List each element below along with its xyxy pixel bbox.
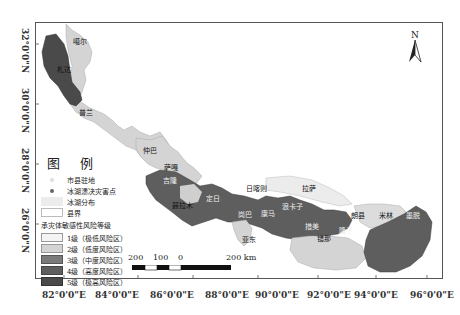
lon-label-92: 92°0'0"E	[307, 290, 351, 300]
risk-level-2-swatch	[41, 244, 63, 253]
place-lhasa: 拉萨	[302, 183, 316, 193]
county-boundary-icon	[41, 208, 63, 217]
place-medog: 墨脱	[406, 210, 420, 220]
place-gamba: 岗巴	[238, 209, 252, 219]
north-arrow: N	[405, 30, 425, 66]
lat-label-30: 30°0'0"N	[20, 88, 30, 133]
scale-label-0: 0	[178, 253, 183, 262]
place-gyirong: 吉隆	[163, 175, 177, 185]
glacial-lake-icon	[41, 197, 63, 206]
north-arrow-icon	[408, 40, 422, 64]
place-yadong: 亚东	[242, 234, 256, 244]
legend-risk-5: 5级（极高风险区）	[41, 276, 151, 287]
place-nyalam: 聂拉木	[172, 200, 193, 210]
legend-item-disaster: 冰湖溃决灾害点	[41, 185, 151, 196]
place-burang: 普兰	[79, 107, 93, 117]
place-comai: 措美	[305, 221, 319, 231]
place-tingri: 定日	[206, 193, 220, 203]
legend-risk-1: 1级（极低风险区）	[41, 232, 151, 243]
place-zanda: 札达	[57, 64, 71, 74]
place-nagarze: 浪卡子	[282, 201, 303, 211]
risk-level-3-swatch	[41, 255, 63, 264]
place-lhunze: 隆子	[339, 225, 353, 235]
risk-level-title: 承灾体敏感性风险等级	[41, 220, 151, 230]
scale-label-100: 100	[153, 253, 168, 262]
place-kangmar: 康马	[261, 208, 275, 218]
lon-label-84: 84°0'0"E	[95, 290, 139, 300]
lon-label-88: 88°0'0"E	[205, 290, 249, 300]
city-dot-icon	[41, 175, 63, 184]
scale-bar-graphic	[132, 265, 237, 271]
risk-level-1-swatch	[41, 233, 63, 242]
legend-item-boundary: 县界	[41, 207, 151, 218]
lon-label-94: 94°0'0"E	[354, 290, 398, 300]
lon-label-96: 96°0'0"E	[410, 290, 454, 300]
lon-label-90: 90°0'0"E	[255, 290, 299, 300]
legend-title: 图 例	[47, 153, 151, 172]
place-gar: 噶尔	[73, 36, 87, 46]
place-mainling: 米林	[379, 210, 393, 220]
scale-label-200km: 200 km	[226, 253, 256, 262]
lon-label-86: 86°0'0"E	[150, 290, 194, 300]
place-shigatse: 日喀则	[246, 183, 267, 193]
risk-level-5-swatch	[41, 277, 63, 286]
lon-label-82: 82°0'0"E	[42, 290, 86, 300]
place-saga: 萨嘎	[164, 162, 178, 172]
legend-item-city: 市县驻地	[41, 174, 151, 185]
place-cona: 错那	[317, 233, 331, 243]
lat-label-28: 28°0'0"N	[20, 148, 30, 193]
lat-label-32: 32°0'0"N	[20, 28, 30, 73]
legend-item-lake: 冰湖分布	[41, 196, 151, 207]
scale-label-200: 200	[128, 253, 143, 262]
risk-level-4-swatch	[41, 266, 63, 275]
lat-label-26: 26°0'0"N	[20, 208, 30, 253]
disaster-point-icon	[41, 186, 63, 195]
place-nang: 朗县	[351, 210, 365, 220]
north-label: N	[405, 30, 425, 40]
